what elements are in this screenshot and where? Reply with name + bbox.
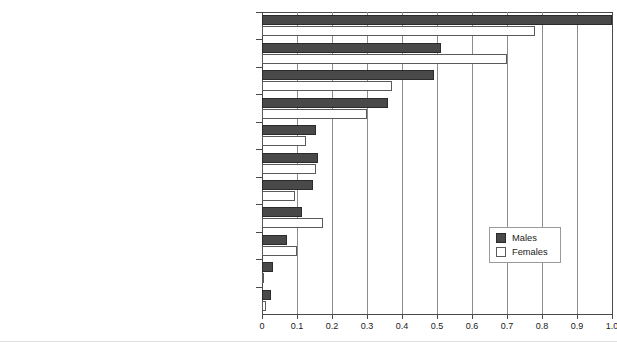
x-axis-tick-label: 0.7 xyxy=(501,321,514,331)
x-axis-tick-label: 0 xyxy=(259,321,264,331)
bar-females xyxy=(262,109,367,119)
legend-label-females: Females xyxy=(512,247,548,257)
bar-males xyxy=(262,15,612,25)
x-axis-tick xyxy=(297,314,298,319)
gridline xyxy=(507,12,508,314)
gridline xyxy=(542,12,543,314)
x-axis-tick-label: 0.1 xyxy=(291,321,304,331)
legend-swatch-males-icon xyxy=(496,233,506,243)
gridline xyxy=(612,12,613,314)
gridline xyxy=(577,12,578,314)
bar-males xyxy=(262,153,318,163)
x-axis-tick xyxy=(437,314,438,319)
bar-females xyxy=(262,164,316,174)
bar-females xyxy=(262,218,323,228)
x-axis-tick-label: 0.6 xyxy=(466,321,479,331)
x-axis-tick xyxy=(367,314,368,319)
legend-entry-males: Males xyxy=(496,233,537,243)
bottom-divider xyxy=(0,341,617,342)
category-tick xyxy=(256,149,262,150)
x-axis-tick xyxy=(332,314,333,319)
bar-females xyxy=(262,54,507,64)
category-tick xyxy=(256,94,262,95)
legend-swatch-females-icon xyxy=(496,247,506,257)
x-axis-tick-label: 0.5 xyxy=(431,321,444,331)
x-axis-tick xyxy=(542,314,543,319)
category-tick xyxy=(256,259,262,260)
bar-males xyxy=(262,43,441,53)
category-tick xyxy=(256,232,262,233)
x-axis-tick-label: 0.9 xyxy=(571,321,584,331)
category-tick xyxy=(256,287,262,288)
x-axis-tick xyxy=(577,314,578,319)
legend-box: Males Females xyxy=(489,227,561,263)
bar-females xyxy=(262,81,392,91)
x-axis-tick-label: 0.3 xyxy=(361,321,374,331)
x-axis-tick-label: 0.2 xyxy=(326,321,339,331)
bar-males xyxy=(262,70,434,80)
bar-males xyxy=(262,125,316,135)
bar-females xyxy=(262,191,295,201)
chart-figure: Joint, muscle or bone issue, mainly affe… xyxy=(0,0,617,350)
category-tick xyxy=(256,67,262,68)
bar-males xyxy=(262,207,302,217)
x-axis-tick xyxy=(472,314,473,319)
bar-females xyxy=(262,246,297,256)
bar-females xyxy=(262,26,535,36)
bar-females xyxy=(262,273,264,283)
bar-males xyxy=(262,290,271,300)
legend-label-males: Males xyxy=(512,233,537,243)
bar-males xyxy=(262,180,313,190)
category-tick xyxy=(256,39,262,40)
bar-males xyxy=(262,262,273,272)
x-axis-tick-label: 1.0 xyxy=(606,321,617,331)
category-tick xyxy=(256,204,262,205)
bar-females xyxy=(262,136,306,146)
x-axis-tick-label: 0.8 xyxy=(536,321,549,331)
x-axis-tick-label: 0.4 xyxy=(396,321,409,331)
category-tick xyxy=(256,177,262,178)
bar-males xyxy=(262,235,287,245)
x-axis-tick xyxy=(262,314,263,319)
x-axis-tick xyxy=(402,314,403,319)
bar-females xyxy=(262,301,266,311)
bar-males xyxy=(262,98,388,108)
category-tick xyxy=(256,122,262,123)
category-tick xyxy=(256,12,262,13)
x-axis-tick xyxy=(507,314,508,319)
legend-entry-females: Females xyxy=(496,247,548,257)
x-axis-tick xyxy=(612,314,613,319)
